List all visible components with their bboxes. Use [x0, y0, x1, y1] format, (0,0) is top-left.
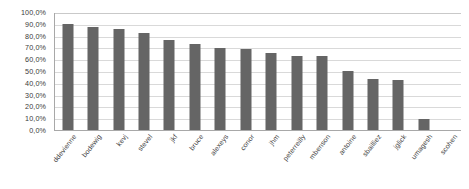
x-axis-tick-text: bruce [188, 133, 205, 152]
bar[interactable] [418, 119, 429, 130]
x-axis-tick-text: antoine [337, 133, 357, 156]
bar-slot [55, 13, 80, 130]
x-axis-tick-text: jkf [169, 133, 179, 143]
x-axis-tick-text: peterreilly [281, 133, 306, 162]
x-axis-tick-text: kevj [115, 133, 128, 147]
bar-slot [411, 13, 436, 130]
y-axis: 100,0%90,0%80,0%70,0%60,0%50,0%40,0%30,0… [0, 0, 50, 189]
x-axis-tick-text: jhm [268, 133, 281, 146]
bar[interactable] [139, 33, 150, 130]
bar[interactable] [164, 40, 175, 130]
x-axis-tick-text: umagesh [410, 133, 434, 161]
bar-slot [157, 13, 182, 130]
x-axis-tick-text: scohen [439, 133, 459, 156]
bar-chart: 100,0%90,0%80,0%70,0%60,0%50,0%40,0%30,0… [0, 0, 469, 189]
x-axis-tick-text: ddevienne [51, 133, 77, 163]
bar[interactable] [62, 24, 73, 130]
bar[interactable] [393, 80, 404, 130]
x-axis-tick-text: sbailliez [361, 133, 382, 158]
x-axis-tick-text: stevel [136, 133, 153, 152]
bar[interactable] [266, 53, 277, 130]
bar-slot [386, 13, 411, 130]
bar-slot [259, 13, 284, 130]
y-axis-tick-label: 50,0% [0, 68, 46, 76]
bar-slot [182, 13, 207, 130]
bar[interactable] [215, 48, 226, 130]
bar-slot [360, 13, 385, 130]
y-axis-tick-label: 60,0% [0, 56, 46, 64]
y-axis-tick-label: 100,0% [0, 9, 46, 17]
y-axis-tick-label: 80,0% [0, 33, 46, 41]
y-axis-tick-label: 0,0% [0, 127, 46, 135]
x-axis: ddeviennebodewigkevjsteveljkfbrucealexey… [54, 133, 461, 189]
y-axis-tick-label: 20,0% [0, 103, 46, 111]
x-axis-tick-text: conor [239, 133, 256, 152]
y-axis-tick-label: 70,0% [0, 44, 46, 52]
bar-slot [284, 13, 309, 130]
y-axis-tick-label: 90,0% [0, 21, 46, 29]
bar-slot [208, 13, 233, 130]
x-axis-tick-text: jglick [392, 133, 407, 150]
bar-slot [106, 13, 131, 130]
x-axis-tick-text: alexeys [209, 133, 230, 157]
bar-slot [233, 13, 258, 130]
x-axis-tick-text: mbenson [308, 133, 332, 161]
x-axis-tick-text: bodewig [81, 133, 103, 158]
y-axis-tick-label: 10,0% [0, 115, 46, 123]
y-axis-tick-label: 40,0% [0, 80, 46, 88]
y-axis-tick-label: 30,0% [0, 92, 46, 100]
bar-slot [131, 13, 156, 130]
bar[interactable] [189, 44, 200, 130]
bar[interactable] [291, 56, 302, 130]
bar-series [55, 13, 461, 130]
